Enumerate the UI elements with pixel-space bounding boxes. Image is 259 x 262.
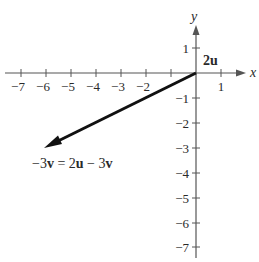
label-part-bold: v <box>106 156 113 171</box>
y-tick-label: −6 <box>175 217 189 230</box>
x-tick-label: −4 <box>86 80 100 93</box>
x-tick-label: 1 <box>218 80 225 93</box>
x-tick-label: −3 <box>111 80 125 93</box>
label-part: − 3 <box>84 156 106 171</box>
label-part-bold: u <box>76 156 84 171</box>
vector-diagram: y x −7 −6 −5 −4 −3 −2 1 1 −1 −2 −3 −4 −5… <box>0 0 259 262</box>
y-tick-label: −2 <box>175 117 189 130</box>
y-axis-label: y <box>191 10 197 24</box>
vector-arrowhead-icon <box>44 136 62 149</box>
x-tick-label: −7 <box>11 80 25 93</box>
x-tick-label: −6 <box>36 80 50 93</box>
x-tick-label: −5 <box>61 80 75 93</box>
x-axis-label: x <box>250 66 256 80</box>
label-part-bold: v <box>47 156 54 171</box>
y-tick-label: −4 <box>175 167 189 180</box>
vector-neg3v-label: −3v = 2u − 3v <box>32 157 113 171</box>
y-tick-label: −3 <box>175 142 189 155</box>
y-tick-label: 1 <box>183 42 190 55</box>
x-axis-arrow-icon <box>236 70 246 77</box>
y-tick-label: −5 <box>175 192 189 205</box>
x-tick-label: −2 <box>136 80 150 93</box>
y-tick-label: −1 <box>175 92 189 105</box>
coordinate-plane <box>0 0 259 262</box>
vector-2u-label: 2u <box>203 54 218 68</box>
label-part: −3 <box>32 156 47 171</box>
label-part: = 2 <box>54 156 76 171</box>
y-axis-arrow-icon <box>193 25 200 35</box>
y-tick-label: −7 <box>175 241 189 254</box>
